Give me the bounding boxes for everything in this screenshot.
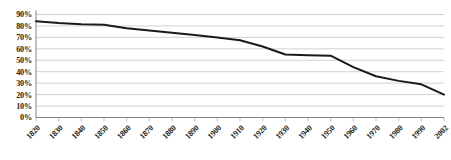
y-axis-tick-label: 70% — [16, 33, 32, 42]
y-axis-tick-label: 40% — [16, 68, 32, 77]
chart-canvas: 90%80%70%60%50%40%30%20%10%0% 1820183018… — [0, 0, 451, 160]
y-axis-tick-label: 20% — [16, 91, 32, 100]
y-axis-tick-label: 10% — [16, 102, 32, 111]
y-axis-tick-label: 60% — [16, 45, 32, 54]
line-chart: 90%80%70%60%50%40%30%20%10%0% 1820183018… — [0, 0, 451, 160]
y-axis-tick-label: 90% — [16, 10, 32, 19]
y-axis-tick-label: 50% — [16, 56, 32, 65]
y-axis-tick-label: 0% — [20, 113, 32, 122]
y-axis-tick-label: 30% — [16, 79, 32, 88]
y-axis-tick-label: 80% — [16, 22, 32, 31]
